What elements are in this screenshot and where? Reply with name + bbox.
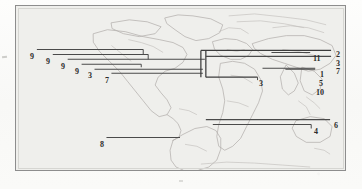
scan-artifact-left bbox=[2, 56, 7, 58]
label-outer-2: 2 bbox=[336, 51, 340, 59]
label-left-4: 9 bbox=[75, 68, 79, 76]
label-right-1: 1 bbox=[320, 71, 324, 79]
label-left-2: 9 bbox=[46, 58, 50, 66]
figure-plate-frame: 9 9 9 9 3 7 3 11 1 5 10 2 3 7 8 4 6 bbox=[15, 5, 346, 171]
range-bars-layer bbox=[16, 6, 345, 170]
label-right-11: 11 bbox=[313, 55, 321, 63]
label-center-3: 3 bbox=[259, 80, 263, 88]
label-left-1: 9 bbox=[30, 53, 34, 61]
scan-artifact-bottom bbox=[179, 180, 183, 182]
label-left-5: 3 bbox=[88, 72, 92, 80]
label-left-6: 7 bbox=[105, 77, 109, 85]
bar-group-bottom bbox=[106, 120, 330, 138]
label-bottom-8: 8 bbox=[100, 141, 104, 149]
scanned-page: 9 9 9 9 3 7 3 11 1 5 10 2 3 7 8 4 6 bbox=[0, 0, 362, 189]
label-left-3: 9 bbox=[61, 63, 65, 71]
label-right-5: 5 bbox=[319, 80, 323, 88]
bar-group-center-bracket bbox=[201, 50, 331, 80]
label-right-10: 10 bbox=[316, 89, 324, 97]
label-bottom-6: 6 bbox=[334, 122, 338, 130]
label-outer-7: 7 bbox=[336, 68, 340, 76]
label-bottom-4: 4 bbox=[314, 128, 318, 136]
